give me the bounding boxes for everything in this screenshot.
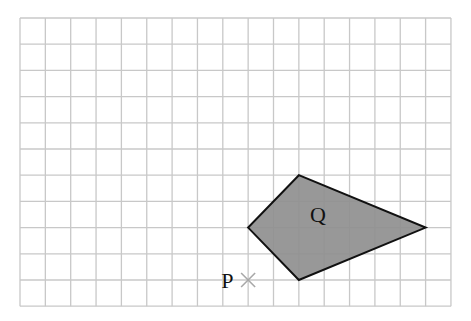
grid-diagram: Q P <box>0 0 471 321</box>
shape-q-label: Q <box>310 202 326 227</box>
square-grid <box>20 18 451 306</box>
point-p-label: P <box>221 268 233 293</box>
shape-q-kite <box>248 175 425 280</box>
